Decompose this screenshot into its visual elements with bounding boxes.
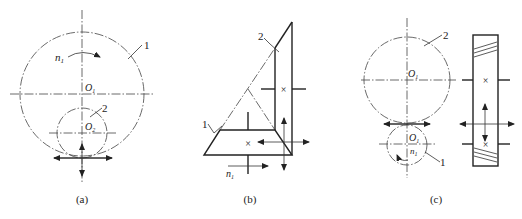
helix-line — [474, 50, 497, 57]
center-o1-label: O1 — [409, 132, 419, 144]
gear-2-leader-tick — [264, 38, 270, 44]
gear-1-label: 1 — [440, 156, 446, 168]
gear-2-label: 2 — [443, 29, 449, 41]
gear-2-center-mark: × — [483, 75, 489, 86]
gear-1-leader-tick — [208, 124, 214, 133]
speed-label: n1 — [410, 146, 418, 157]
gear-2-label: 2 — [258, 30, 264, 42]
panel-a-caption: (a) — [76, 193, 89, 206]
gear-1-leader-line — [128, 45, 142, 59]
center-o2-label: O1 — [408, 68, 418, 80]
gear-1-center-mark: × — [245, 138, 251, 149]
gear-2-label: 2 — [102, 102, 108, 114]
speed-label: n1 — [226, 168, 234, 180]
gear-1-leader-line — [425, 152, 440, 162]
center-o2-label: O2 — [85, 121, 95, 133]
panel-a: n1 1 2 O1 O2 (a) — [10, 10, 153, 206]
gear-2-top-edge — [275, 22, 292, 48]
helix-line — [474, 42, 497, 49]
gear-1-label: 1 — [144, 39, 150, 51]
rotation-arrow-icon — [397, 155, 408, 160]
gear-2-center-mark: × — [281, 84, 287, 95]
panel-b: × × n1 1 2 (b) — [202, 22, 309, 206]
helix-line — [474, 46, 497, 53]
gear-2-leader-line — [424, 35, 442, 46]
panel-b-caption: (b) — [244, 193, 257, 206]
pitch-cone-line-2 — [248, 89, 275, 130]
speed-label: n1 — [55, 51, 64, 65]
gear-diagram-figure: n1 1 2 O1 O2 (a) × × — [0, 0, 522, 219]
gear-1-center-mark: × — [483, 139, 489, 150]
gear-1-label: 1 — [202, 118, 208, 130]
panel-c: O1 O1 n1 2 1 × × (c) — [361, 18, 514, 206]
panel-c-caption: (c) — [430, 193, 443, 206]
center-o1-label: O1 — [85, 82, 95, 94]
rotation-arrow-icon — [68, 53, 100, 58]
